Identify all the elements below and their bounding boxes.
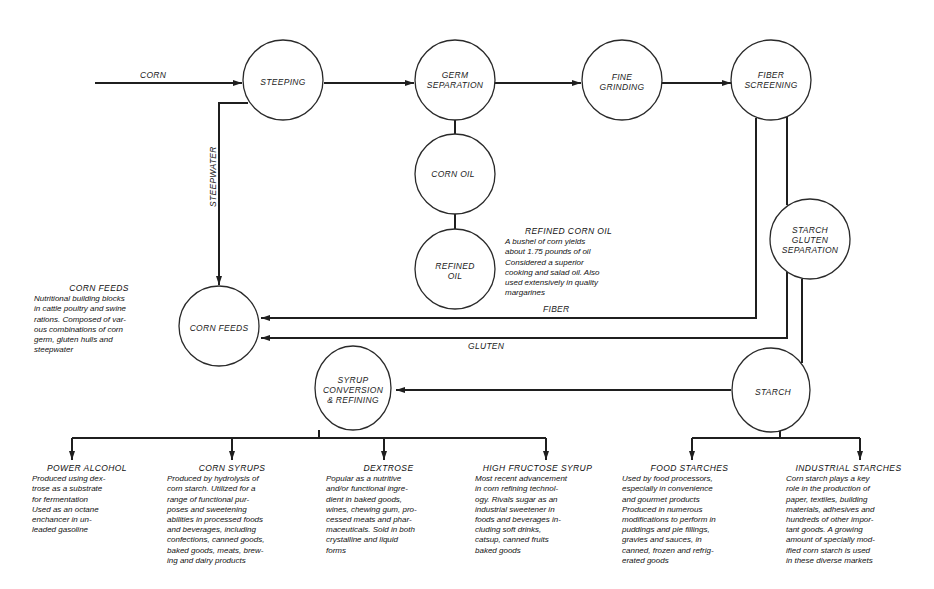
steeping-label: STEEPING — [260, 77, 305, 87]
note-title: POWER ALCOHOL — [32, 463, 142, 473]
note-body: Used by food processors, especially in c… — [622, 474, 757, 566]
gluten-flow-label: GLUTEN — [468, 341, 504, 351]
note-title: CORN SYRUPS — [167, 463, 297, 473]
note-body: Nutritional building blocks in cattle po… — [34, 294, 164, 355]
starch-gluten-separation-label: STARCH GLUTEN SEPARATION — [782, 225, 839, 255]
food-starches-note: FOOD STARCHES Used by food processors, e… — [622, 463, 757, 566]
dextrose-note: DEXTROSE Popular as a nutritive and/or f… — [326, 463, 451, 556]
corn-oil-label: CORN OIL — [431, 169, 475, 179]
syrup-conversion-label: SYRUP CONVERSION & REFINING — [323, 375, 383, 405]
fine-grinding-label: FINE GRINDING — [600, 72, 645, 92]
note-title: HIGH FRUCTOSE SYRUP — [475, 463, 600, 473]
germ-separation-label: GERM SEPARATION — [427, 70, 484, 90]
power-alcohol-note: POWER ALCOHOL Produced using dex- trose … — [32, 463, 142, 535]
refined-corn-oil-note: REFINED CORN OIL A bushel of corn yields… — [505, 226, 665, 298]
note-body: Produced using dex- trose as a substrate… — [32, 474, 142, 535]
note-title: INDUSTRIAL STARCHES — [786, 463, 911, 473]
corn-feeds-note: CORN FEEDS Nutritional building blocks i… — [34, 283, 164, 355]
industrial-starches-note: INDUSTRIAL STARCHES Corn starch plays a … — [786, 463, 911, 566]
corn-feeds-label: CORN FEEDS — [190, 323, 249, 333]
note-title: CORN FEEDS — [34, 283, 164, 293]
note-body: A bushel of corn yields about 1.75 pound… — [505, 237, 665, 298]
refined-oil-label: REFINED OIL — [435, 261, 474, 281]
note-title: REFINED CORN OIL — [505, 226, 665, 236]
note-body: Corn starch plays a key role in the prod… — [786, 474, 911, 566]
steepwater-flow-label: STEEPWATER — [208, 146, 218, 207]
note-title: DEXTROSE — [326, 463, 451, 473]
note-body: Most recent advancement in corn refining… — [475, 474, 600, 556]
fiber-screening-label: FIBER SCREENING — [744, 70, 797, 90]
fiber-flow-label: FIBER — [543, 304, 570, 314]
corn-syrups-note: CORN SYRUPS Produced by hydrolysis of co… — [167, 463, 297, 566]
note-body: Produced by hydrolysis of corn starch. U… — [167, 474, 297, 566]
corn-flow-label: CORN — [140, 70, 166, 80]
note-body: Popular as a nutritive and/or functional… — [326, 474, 451, 556]
steepwater-flow-line — [219, 103, 248, 285]
starch-label: STARCH — [755, 387, 791, 397]
high-fructose-syrup-note: HIGH FRUCTOSE SYRUP Most recent advancem… — [475, 463, 600, 556]
note-title: FOOD STARCHES — [622, 463, 757, 473]
